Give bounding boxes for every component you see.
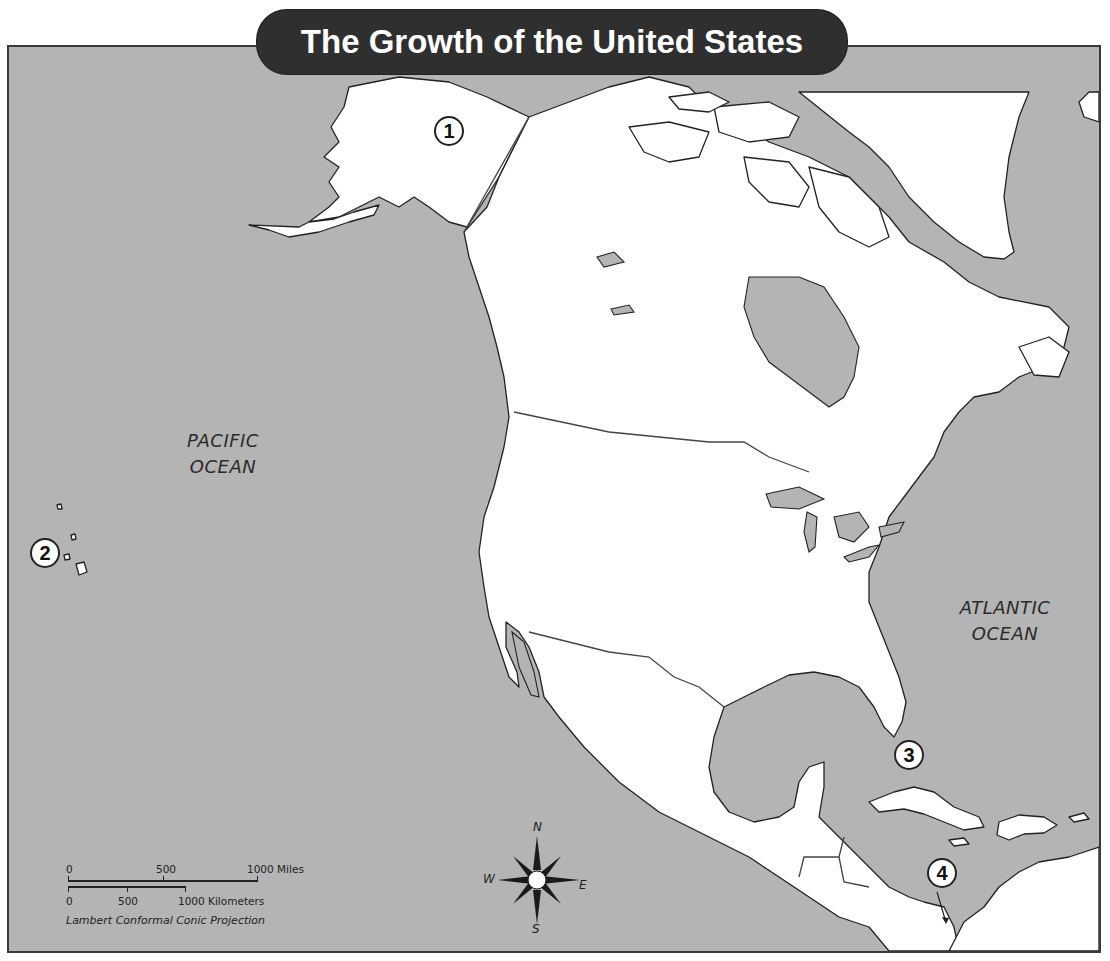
scale-miles-0: 0	[66, 863, 73, 875]
projection-label: Lambert Conformal Conic Projection	[66, 914, 265, 927]
compass-n: N	[533, 820, 542, 834]
marker-2-hawaii: 2	[30, 538, 60, 568]
ocean-label-line: PACIFIC	[168, 428, 278, 454]
scale-tick	[68, 887, 69, 892]
land-cuba	[869, 787, 984, 830]
compass-e: E	[579, 878, 587, 892]
atlantic-ocean-label: ATLANTIC OCEAN	[940, 595, 1070, 647]
scale-km-0: 0	[66, 895, 73, 907]
scale-km-1000: 1000 Kilometers	[178, 895, 264, 907]
scale-miles-500: 500	[156, 863, 176, 875]
pacific-ocean-label: PACIFIC OCEAN	[168, 428, 278, 480]
map-frame	[7, 45, 1101, 953]
land-hawaii	[76, 562, 87, 575]
ocean-label-line: ATLANTIC	[940, 595, 1070, 621]
scale-km-500: 500	[118, 895, 138, 907]
ocean-label-line: OCEAN	[168, 454, 278, 480]
scale-tick	[127, 887, 128, 892]
marker-1-alaska: 1	[434, 116, 464, 146]
compass-s: S	[532, 922, 540, 936]
scale-bar: 0 500 1000 Miles 0 500 1000 Kilometers L…	[62, 860, 362, 940]
scale-miles-1000: 1000 Miles	[247, 863, 304, 875]
scale-tick	[163, 876, 164, 881]
land-south-america	[949, 847, 1099, 951]
scale-tick	[185, 887, 186, 892]
ocean-label-line: OCEAN	[940, 621, 1070, 647]
compass-w: W	[483, 872, 495, 886]
marker-4-panama: 4	[927, 858, 957, 888]
scale-tick	[68, 876, 69, 881]
scale-tick	[257, 876, 258, 881]
compass-star-icon	[480, 818, 590, 938]
compass-rose: N S W E	[480, 818, 590, 938]
map-title: The Growth of the United States	[257, 10, 847, 74]
marker-3-cuba: 3	[894, 740, 924, 770]
map-canvas	[9, 47, 1099, 951]
land-hispaniola	[997, 815, 1057, 840]
